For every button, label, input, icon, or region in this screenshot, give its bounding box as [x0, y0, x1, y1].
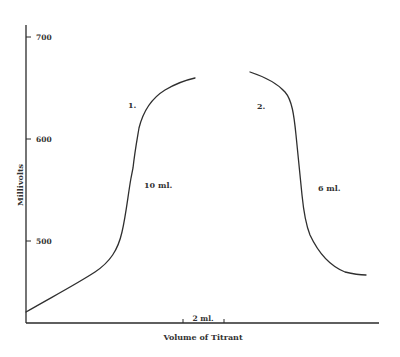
titration-chart: 700 600 500 Millivolts 2 ml. Volume of T…: [0, 0, 400, 357]
curve-2: [250, 72, 366, 275]
y-tick-label-500: 500: [36, 237, 52, 246]
curve-2-volume-label: 6 ml.: [318, 183, 341, 193]
y-tick-label-600: 600: [36, 135, 52, 144]
scale-marker-label: 2 ml.: [192, 314, 213, 323]
y-tick-label-700: 700: [36, 33, 52, 42]
curve-2-label: 2.: [257, 101, 266, 111]
x-axis-label: Volume of Titrant: [162, 332, 242, 342]
curve-1: [26, 78, 195, 312]
curve-1-volume-label: 10 ml.: [144, 180, 172, 190]
curve-1-label: 1.: [128, 100, 137, 110]
y-axis-label: Millivolts: [15, 163, 25, 206]
